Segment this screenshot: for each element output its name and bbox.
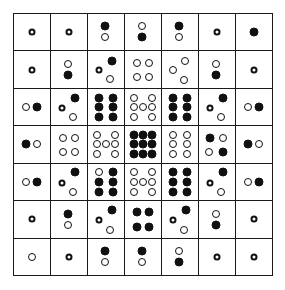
dot-filled bbox=[181, 205, 190, 214]
dot-filled bbox=[145, 222, 154, 231]
dot-open bbox=[111, 131, 119, 139]
dot-tiny bbox=[95, 217, 102, 224]
dot-open bbox=[148, 168, 156, 176]
dot-open bbox=[130, 178, 138, 186]
dot-open bbox=[95, 168, 103, 176]
cell-r3c6 bbox=[199, 89, 236, 126]
dot-filled bbox=[94, 112, 103, 121]
cell-r1c1 bbox=[14, 14, 51, 51]
dot-filled bbox=[107, 205, 116, 214]
cell-r7c5 bbox=[162, 239, 199, 276]
dot-filled bbox=[138, 33, 147, 42]
dot-open bbox=[183, 150, 191, 158]
dot-pattern-grid bbox=[13, 13, 273, 276]
dot-filled bbox=[218, 168, 227, 177]
dot-filled bbox=[244, 140, 253, 149]
cell-r2c4 bbox=[125, 51, 162, 88]
dot-filled bbox=[130, 150, 139, 159]
dot-tiny bbox=[251, 253, 258, 260]
cell-r4c2 bbox=[51, 126, 88, 163]
dot-open bbox=[148, 94, 156, 102]
dot-filled bbox=[183, 93, 192, 102]
dot-open bbox=[93, 150, 101, 158]
dot-filled bbox=[132, 222, 141, 231]
dot-open bbox=[255, 140, 263, 148]
dot-open bbox=[212, 60, 220, 68]
dot-open bbox=[180, 76, 188, 84]
cell-r1c3 bbox=[88, 14, 125, 51]
cell-r4c7 bbox=[236, 126, 273, 163]
dot-tiny bbox=[66, 29, 73, 36]
dot-open bbox=[130, 188, 138, 196]
dot-open bbox=[169, 66, 177, 74]
dot-open bbox=[217, 188, 225, 196]
dot-filled bbox=[218, 147, 227, 156]
cell-r2c3 bbox=[88, 51, 125, 88]
dot-filled bbox=[109, 93, 118, 102]
dot-open bbox=[71, 134, 79, 142]
cell-r2c1 bbox=[14, 51, 51, 88]
dot-open bbox=[175, 247, 183, 255]
cell-r5c5 bbox=[162, 164, 199, 201]
dot-open bbox=[93, 131, 101, 139]
cell-r3c1 bbox=[14, 89, 51, 126]
dot-filled bbox=[148, 140, 157, 149]
dot-tiny bbox=[206, 179, 213, 186]
dot-tiny bbox=[29, 66, 36, 73]
dot-filled bbox=[183, 168, 192, 177]
dot-tiny bbox=[251, 66, 258, 73]
cell-r5c3 bbox=[88, 164, 125, 201]
dot-open bbox=[212, 210, 220, 218]
dot-filled bbox=[175, 22, 184, 31]
dot-open bbox=[111, 140, 119, 148]
dot-filled bbox=[168, 168, 177, 177]
dot-filled bbox=[130, 140, 139, 149]
cell-r7c6 bbox=[199, 239, 236, 276]
dot-filled bbox=[139, 140, 148, 149]
dot-filled bbox=[255, 103, 264, 112]
dot-filled bbox=[70, 93, 79, 102]
cell-r7c7 bbox=[236, 239, 273, 276]
dot-open bbox=[102, 140, 110, 148]
cell-r2c5 bbox=[162, 51, 199, 88]
cell-r3c5 bbox=[162, 89, 199, 126]
dot-open bbox=[139, 103, 147, 111]
dot-filled bbox=[168, 177, 177, 186]
cell-r2c7 bbox=[236, 51, 273, 88]
dot-open bbox=[130, 103, 138, 111]
dot-filled bbox=[183, 187, 192, 196]
dot-filled bbox=[168, 112, 177, 121]
dot-filled bbox=[109, 168, 118, 177]
dot-open bbox=[148, 113, 156, 121]
cell-r7c2 bbox=[51, 239, 88, 276]
dot-open bbox=[181, 57, 189, 65]
cell-r7c3 bbox=[88, 239, 125, 276]
dot-filled bbox=[109, 112, 118, 121]
dot-tiny bbox=[251, 216, 258, 223]
dot-open bbox=[22, 178, 30, 186]
dot-open bbox=[148, 188, 156, 196]
dot-filled bbox=[148, 131, 157, 140]
dot-open bbox=[33, 140, 41, 148]
dot-tiny bbox=[206, 104, 213, 111]
dot-filled bbox=[250, 28, 259, 37]
dot-open bbox=[205, 148, 213, 156]
dot-tiny bbox=[214, 29, 221, 36]
dot-open bbox=[69, 113, 77, 121]
dot-open bbox=[59, 134, 67, 142]
dot-open bbox=[183, 140, 191, 148]
dot-open bbox=[148, 103, 156, 111]
dot-filled bbox=[109, 177, 118, 186]
dot-open bbox=[22, 103, 30, 111]
dot-open bbox=[139, 178, 147, 186]
dot-open bbox=[101, 258, 109, 266]
cell-r6c6 bbox=[199, 201, 236, 238]
dot-filled bbox=[168, 187, 177, 196]
dot-filled bbox=[255, 177, 264, 186]
dot-filled bbox=[175, 258, 184, 267]
cell-r5c6 bbox=[199, 164, 236, 201]
dot-open bbox=[148, 178, 156, 186]
cell-r6c1 bbox=[14, 201, 51, 238]
dot-open bbox=[244, 178, 252, 186]
cell-r5c1 bbox=[14, 164, 51, 201]
